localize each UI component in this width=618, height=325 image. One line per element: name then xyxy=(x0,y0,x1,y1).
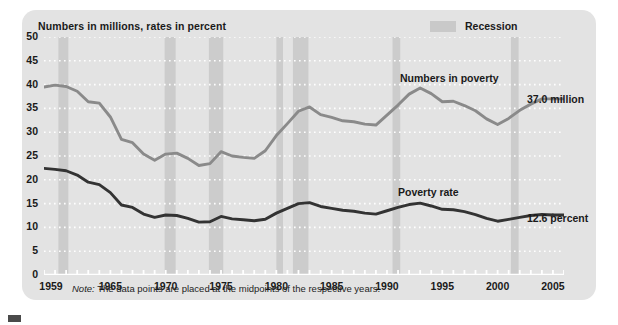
figure-note: Note: The data points are placed at the … xyxy=(72,283,380,294)
legend-label-recession: Recession xyxy=(465,20,518,32)
y-axis-tick-label: 0 xyxy=(12,268,38,280)
y-axis-tick-label: 20 xyxy=(12,173,38,185)
chart-figure: Numbers in millions, rates in percent Re… xyxy=(0,0,618,325)
figure-corner-marker xyxy=(8,315,21,322)
x-axis-tick-label: 1995 xyxy=(420,280,464,292)
y-axis-tick-label: 10 xyxy=(12,220,38,232)
end-label-numbers: 37.0 million xyxy=(527,93,584,105)
y-axis-tick-label: 45 xyxy=(12,54,38,66)
y-axis-tick-label: 35 xyxy=(12,101,38,113)
axis-units-label: Numbers in millions, rates in percent xyxy=(38,20,226,32)
note-prefix: Note: xyxy=(72,283,95,294)
x-axis-tick-label: 2005 xyxy=(531,280,575,292)
y-axis-tick-label: 40 xyxy=(12,78,38,90)
annotation-poverty-rate: Poverty rate xyxy=(398,186,459,198)
x-axis-tick-label: 2000 xyxy=(476,280,520,292)
y-axis-tick-label: 50 xyxy=(12,30,38,42)
y-axis-tick-label: 25 xyxy=(12,149,38,161)
y-axis-tick-label: 15 xyxy=(12,197,38,209)
recession-swatch-icon xyxy=(430,21,456,32)
legend: Recession xyxy=(430,20,518,32)
x-axis-tick-label: 1959 xyxy=(29,280,73,292)
y-axis-tick-label: 30 xyxy=(12,125,38,137)
annotation-numbers-in-poverty: Numbers in poverty xyxy=(400,72,499,84)
note-body: The data points are placed at the midpoi… xyxy=(95,283,381,294)
end-label-rate: 12.6 percent xyxy=(527,212,588,224)
y-axis-tick-label: 5 xyxy=(12,244,38,256)
